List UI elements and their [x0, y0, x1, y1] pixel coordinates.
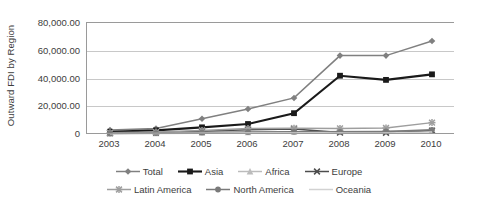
data-point-asterisk — [429, 119, 436, 126]
x-axis-tick-label: 2009 — [374, 138, 395, 149]
legend-item[interactable]: Asia — [177, 166, 223, 177]
plot-area — [86, 22, 454, 133]
x-axis-tick-label: 2005 — [190, 138, 211, 149]
x-axis-tick-labels: 20032004200520062007200820092010 — [86, 138, 454, 154]
legend-marker-cross — [304, 166, 330, 177]
legend-label: Latin America — [134, 184, 192, 195]
y-axis-tick-labels: 80,000.0060,000.0040,000.0020,000.000 — [22, 15, 84, 136]
legend-row-1: TotalAsiaAfricaEurope — [0, 162, 477, 180]
legend-item[interactable]: Africa — [237, 166, 289, 177]
legend-label: Asia — [205, 166, 223, 177]
data-point-diamond — [429, 38, 436, 45]
data-point-square — [429, 71, 435, 77]
legend-label: North America — [233, 184, 293, 195]
x-axis-tick-label: 2004 — [144, 138, 165, 149]
x-axis-tick-label: 2003 — [98, 138, 119, 149]
x-axis-tick-label: 2007 — [282, 138, 303, 149]
legend-item[interactable]: North America — [205, 184, 293, 195]
legend-marker-none — [308, 184, 334, 195]
legend-label: Oceania — [336, 184, 371, 195]
data-point-square — [383, 77, 389, 83]
legend-marker-diamond — [115, 166, 141, 177]
y-axis-tick-label: 60,000.00 — [38, 44, 80, 55]
legend-label: Europe — [332, 166, 363, 177]
y-axis-tick-label: 40,000.00 — [38, 72, 80, 83]
legend-item[interactable]: Total — [115, 166, 163, 177]
data-point-diamond — [245, 106, 252, 113]
legend-item[interactable]: Europe — [304, 166, 363, 177]
y-axis-title: Outward FDI by Region — [0, 0, 22, 150]
legend-label: Total — [143, 166, 163, 177]
data-point-asterisk — [115, 186, 122, 193]
legend-marker-triangle — [237, 166, 263, 177]
data-point-diamond — [383, 52, 390, 59]
data-point-square — [291, 110, 297, 116]
legend-item[interactable]: Oceania — [308, 184, 371, 195]
data-point-square — [187, 168, 193, 174]
chart-legend: TotalAsiaAfricaEurope Latin AmericaNorth… — [0, 162, 477, 198]
x-axis-tick-label: 2008 — [328, 138, 349, 149]
legend-item[interactable]: Latin America — [106, 184, 192, 195]
x-axis-line — [86, 133, 454, 134]
y-axis-tick-label: 20,000.00 — [38, 100, 80, 111]
legend-label: Africa — [265, 166, 289, 177]
legend-row-2: Latin AmericaNorth AmericaOceania — [0, 180, 477, 198]
x-axis-tick-label: 2006 — [236, 138, 257, 149]
legend-marker-asterisk — [106, 184, 132, 195]
x-axis-tick-label: 2010 — [420, 138, 441, 149]
data-point-diamond — [124, 168, 131, 175]
data-point-circle — [216, 186, 222, 192]
y-axis-title-text: Outward FDI by Region — [6, 24, 17, 125]
data-point-square — [337, 73, 343, 79]
legend-marker-circle — [205, 184, 231, 195]
legend-marker-square — [177, 166, 203, 177]
series-line — [110, 41, 432, 130]
series-lines — [87, 23, 455, 134]
data-point-diamond — [199, 115, 206, 122]
y-axis-tick-label: 0 — [75, 128, 80, 139]
chart-container: Outward FDI by Region 80,000.0060,000.00… — [0, 0, 477, 218]
y-axis-tick-label: 80,000.00 — [38, 17, 80, 28]
